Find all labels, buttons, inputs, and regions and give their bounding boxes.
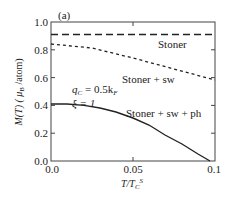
y-tick-labels: 0.0 0.2 0.4 0.6 0.8 1.0 [34, 16, 48, 167]
annotation-xi: ξ = 1 [72, 97, 95, 110]
svg-text:1.0: 1.0 [34, 16, 48, 28]
chart: 0.0 0.2 0.4 0.6 0.8 1.0 0.0 0.05 0.1 (a)… [0, 0, 232, 197]
svg-text:0.8: 0.8 [34, 44, 48, 56]
svg-text:0.0: 0.0 [45, 163, 59, 175]
label-stoner: Stoner [158, 38, 187, 50]
svg-text:0.6: 0.6 [34, 72, 48, 84]
panel-label: (a) [58, 9, 71, 22]
label-stoner-sw-ph: Stoner + sw + ph [126, 107, 202, 119]
svg-text:0.05: 0.05 [123, 163, 143, 175]
annotation-qc: qC = 0.5kF [72, 83, 118, 97]
y-axis-label: M(T) ( μB /atom) [13, 58, 26, 126]
x-tick-labels: 0.0 0.05 0.1 [45, 163, 221, 175]
svg-text:0.4: 0.4 [34, 99, 48, 111]
svg-text:0.2: 0.2 [34, 127, 48, 139]
svg-text:0.1: 0.1 [207, 163, 221, 175]
x-axis-label: T/TCS [121, 177, 144, 191]
label-stoner-sw: Stoner + sw [122, 73, 175, 85]
